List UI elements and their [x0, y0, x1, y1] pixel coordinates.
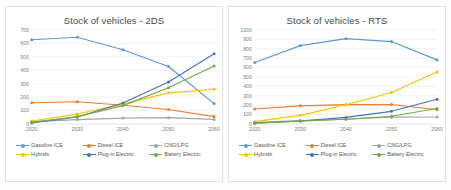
- legend-item-label: Gasoline ICE: [31, 142, 63, 149]
- chart-card-rts: Stock of vehicles - RTS 0100200300400500…: [228, 6, 446, 182]
- data-point: [76, 115, 79, 118]
- page-title-rts: Stock of vehicles - RTS: [229, 7, 445, 26]
- data-point: [299, 44, 302, 47]
- data-point: [436, 71, 439, 74]
- svg-text:200: 200: [243, 102, 252, 108]
- legend-marker-icon: [149, 142, 162, 149]
- data-point: [121, 104, 124, 107]
- line-chart-2ds: 0100200300400500600700202020302040205020…: [6, 26, 222, 138]
- series-line-battery-electric: [32, 66, 214, 122]
- data-point: [76, 100, 79, 103]
- svg-text:800: 800: [243, 46, 252, 52]
- svg-text:2050: 2050: [163, 126, 175, 132]
- legend-item-label: CNG/LPG: [387, 142, 411, 149]
- legend-item-label: Gasoline ICE: [254, 142, 286, 149]
- svg-text:2040: 2040: [117, 126, 129, 132]
- svg-text:500: 500: [20, 54, 29, 60]
- data-point: [390, 91, 393, 94]
- svg-text:100: 100: [20, 107, 29, 113]
- series-line-hybrids: [255, 72, 437, 122]
- data-point: [253, 122, 256, 125]
- data-point: [76, 36, 79, 39]
- legend-item-label: Battery Electric: [387, 151, 423, 158]
- svg-text:2030: 2030: [72, 126, 84, 132]
- legend-marker-icon: [83, 151, 96, 158]
- svg-text:400: 400: [243, 83, 252, 89]
- chart-page: Stock of vehicles - 2DS 0100200300400500…: [0, 0, 451, 190]
- legend-item-label: Diesel ICE: [98, 142, 123, 149]
- svg-text:2050: 2050: [386, 126, 398, 132]
- data-point: [30, 101, 33, 104]
- legend-item-gasoline-ice[interactable]: Gasoline ICE: [237, 142, 304, 149]
- data-point: [390, 40, 393, 43]
- legend-marker-icon: [149, 151, 162, 158]
- data-point: [167, 80, 170, 83]
- legend-item-diesel-ice[interactable]: Diesel ICE: [81, 142, 148, 149]
- legend-item-battery-electric[interactable]: Battery Electric: [370, 151, 437, 158]
- data-point: [344, 103, 347, 106]
- svg-text:600: 600: [20, 40, 29, 46]
- data-point: [213, 64, 216, 67]
- legend-marker-icon: [372, 142, 385, 149]
- svg-text:500: 500: [243, 74, 252, 80]
- legend-item-label: Diesel ICE: [321, 142, 346, 149]
- legend-item-label: Plug-in Electric: [98, 151, 134, 158]
- svg-text:300: 300: [243, 93, 252, 99]
- svg-text:100: 100: [243, 111, 252, 117]
- data-point: [213, 52, 216, 55]
- line-chart-rts: 0100200300400500600700800900100020202030…: [229, 26, 445, 138]
- data-point: [299, 120, 302, 123]
- legend-marker-icon: [306, 151, 319, 158]
- svg-text:700: 700: [243, 55, 252, 61]
- svg-text:1000: 1000: [240, 27, 252, 33]
- svg-text:900: 900: [243, 36, 252, 42]
- data-point: [436, 58, 439, 61]
- legend-rts: Gasoline ICEDiesel ICECNG/LPGHybridsPlug…: [229, 138, 445, 158]
- legend-item-hybrids[interactable]: Hybrids: [14, 151, 81, 158]
- data-point: [121, 48, 124, 51]
- legend-item-hybrids[interactable]: Hybrids: [237, 151, 304, 158]
- plot-area-2ds: 0100200300400500600700202020302040205020…: [6, 26, 222, 138]
- svg-text:2030: 2030: [295, 126, 307, 132]
- data-point: [30, 38, 33, 41]
- data-point: [167, 86, 170, 89]
- svg-text:2020: 2020: [26, 126, 38, 132]
- data-point: [167, 108, 170, 111]
- legend-marker-icon: [83, 142, 96, 149]
- legend-item-label: Battery Electric: [164, 151, 200, 158]
- data-point: [213, 88, 216, 91]
- data-point: [121, 117, 124, 120]
- data-point: [167, 91, 170, 94]
- legend-item-plug-in-electric[interactable]: Plug-in Electric: [81, 151, 148, 158]
- legend-item-cng-lpg[interactable]: CNG/LPG: [147, 142, 214, 149]
- legend-item-plug-in-electric[interactable]: Plug-in Electric: [304, 151, 371, 158]
- legend-item-gasoline-ice[interactable]: Gasoline ICE: [14, 142, 81, 149]
- legend-item-battery-electric[interactable]: Battery Electric: [147, 151, 214, 158]
- data-point: [299, 104, 302, 107]
- legend-item-cng-lpg[interactable]: CNG/LPG: [370, 142, 437, 149]
- data-point: [253, 61, 256, 64]
- data-point: [213, 115, 216, 118]
- data-point: [344, 37, 347, 40]
- svg-text:700: 700: [20, 27, 29, 33]
- data-point: [390, 103, 393, 106]
- data-point: [167, 116, 170, 119]
- legend-item-diesel-ice[interactable]: Diesel ICE: [304, 142, 371, 149]
- legend-marker-icon: [16, 151, 29, 158]
- legend-2ds: Gasoline ICEDiesel ICECNG/LPGHybridsPlug…: [6, 138, 222, 158]
- data-point: [436, 116, 439, 119]
- svg-text:300: 300: [20, 81, 29, 87]
- legend-marker-icon: [306, 142, 319, 149]
- data-point: [167, 65, 170, 68]
- svg-text:2040: 2040: [340, 126, 352, 132]
- data-point: [436, 107, 439, 110]
- svg-text:200: 200: [20, 94, 29, 100]
- legend-marker-icon: [16, 142, 29, 149]
- data-point: [299, 114, 302, 117]
- data-point: [213, 102, 216, 105]
- chart-card-2ds: Stock of vehicles - 2DS 0100200300400500…: [5, 6, 223, 182]
- data-point: [30, 121, 33, 124]
- data-point: [344, 118, 347, 121]
- legend-item-label: Hybrids: [31, 151, 49, 158]
- data-point: [436, 98, 439, 101]
